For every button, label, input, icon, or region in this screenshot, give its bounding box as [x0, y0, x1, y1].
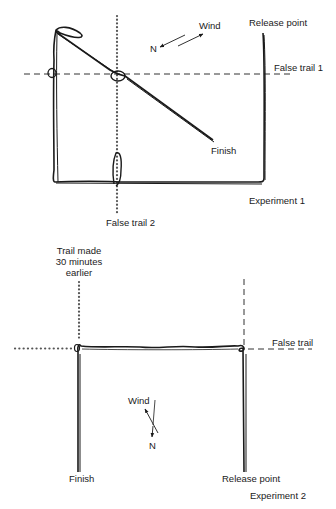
- diagram-canvas: [0, 0, 336, 509]
- experiment-1-title: Experiment 1: [249, 195, 305, 206]
- release-point-label-2: Release point: [222, 473, 280, 484]
- finish-label-1: Finish: [211, 145, 236, 156]
- north-label-1: N: [150, 43, 157, 54]
- release-point-label-1: Release point: [249, 17, 307, 28]
- experiment-2-diagram: [15, 279, 312, 472]
- experiment-2-title: Experiment 2: [250, 490, 306, 501]
- wind-label-1: Wind: [199, 20, 221, 31]
- trail-made-label: Trail made 30 minutes earlier: [54, 245, 104, 278]
- wind-arrow-2: [145, 409, 158, 433]
- experiment-1-diagram: [24, 16, 292, 214]
- false-trail-2-label: False trail 2: [106, 217, 155, 228]
- wind-arrow: [178, 34, 203, 46]
- north-label-2: N: [149, 440, 156, 451]
- north-arrow-2: [152, 426, 153, 437]
- experiment-1-path: [53, 27, 264, 182]
- finish-label-2: Finish: [69, 473, 94, 484]
- experiment-2-path: [78, 345, 244, 472]
- north-arrow: [160, 35, 185, 47]
- wind-label-2: Wind: [128, 395, 150, 406]
- false-trail-label-2: False trail: [272, 337, 313, 348]
- false-trail-1-label: False trail 1: [274, 62, 323, 73]
